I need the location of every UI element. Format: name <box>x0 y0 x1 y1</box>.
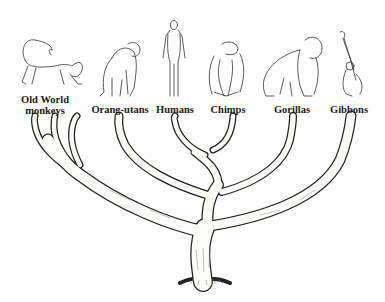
gorilla-icon <box>263 37 322 96</box>
label-line-1: Old World <box>21 94 69 105</box>
orangutan-icon <box>100 42 140 96</box>
human-icon <box>163 21 185 97</box>
monkey-icon <box>22 40 82 84</box>
taxon-label-old-world-monkeys: Old World monkeys <box>21 94 69 116</box>
label-line-2: monkeys <box>21 105 69 116</box>
taxon-label-chimps: Chimps <box>210 104 245 115</box>
gibbon-icon <box>340 31 362 96</box>
animal-illustrations <box>0 0 385 302</box>
chimpanzee-icon <box>209 42 244 96</box>
taxon-label-gibbons: Gibbons <box>330 104 368 115</box>
primate-phylogenetic-tree: Old World monkeys Orang-utans Humans Chi… <box>0 0 385 302</box>
taxon-label-orang-utans: Orang-utans <box>91 104 148 115</box>
taxon-label-gorillas: Gorillas <box>274 104 310 115</box>
taxon-label-humans: Humans <box>156 104 194 115</box>
